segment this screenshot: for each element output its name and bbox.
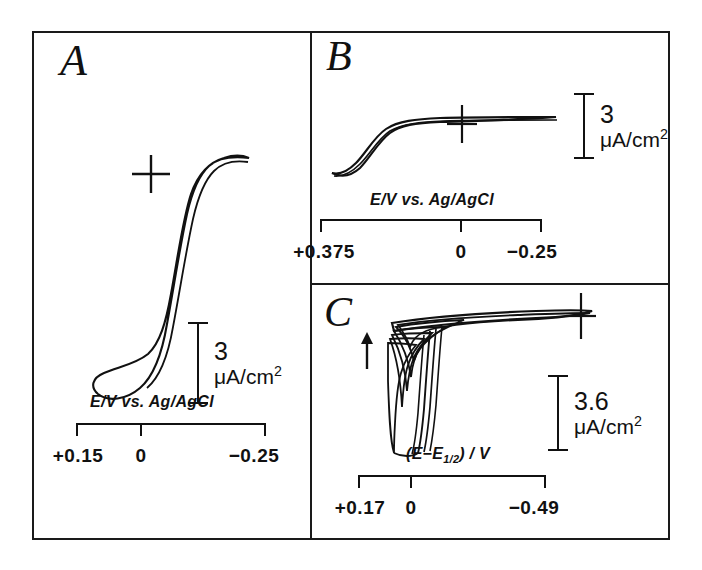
panel-c: C bbox=[310, 283, 670, 540]
panel-b-letter: B bbox=[326, 35, 352, 77]
axis-ticklabel-0: +0.375 bbox=[293, 241, 355, 263]
panel-a-axis-caption: E/V vs. Ag/AgCl bbox=[90, 393, 214, 411]
scalebar-serif-bottom bbox=[574, 157, 594, 159]
scalebar-beam bbox=[583, 93, 585, 159]
axis-tick-end bbox=[264, 423, 266, 436]
panel-a-scalebar-label: 3 μA/cm2 bbox=[214, 338, 282, 388]
axis-caption-sub: 1/2 bbox=[443, 453, 459, 465]
scalebar-value: 3.6 bbox=[574, 388, 642, 414]
panel-b-scalebar-label: 3 μA/cm2 bbox=[600, 101, 668, 151]
scalebar-value: 3 bbox=[214, 338, 282, 364]
panel-b-scalebar: 3 μA/cm2 bbox=[574, 93, 594, 159]
axis-tick-start bbox=[76, 423, 78, 436]
panel-a-letter: A bbox=[60, 39, 87, 83]
axis-ticklabel-0: +0.17 bbox=[335, 497, 386, 519]
panel-a-scalebar: 3 μA/cm2 bbox=[188, 322, 208, 404]
panel-a: A 3 μA/cm2 E/V vs. Ag/AgCl bbox=[32, 31, 310, 540]
scalebar-unit: μA/cm2 bbox=[574, 414, 642, 438]
scalebar-beam bbox=[197, 322, 199, 404]
axis-tick-mid bbox=[410, 475, 412, 488]
axis-caption-post: ) / V bbox=[459, 445, 490, 462]
axis-ticklabel-2: −0.25 bbox=[229, 445, 280, 467]
axis-ticklabel-1: 0 bbox=[135, 445, 146, 467]
scalebar-beam bbox=[557, 375, 559, 451]
scalebar-unit: μA/cm2 bbox=[214, 364, 282, 388]
axis-ticklabel-0: +0.15 bbox=[53, 445, 104, 467]
axis-tick-start bbox=[358, 475, 360, 488]
panel-c-axis-bracket bbox=[358, 475, 546, 491]
axis-tick-end bbox=[540, 219, 542, 232]
axis-tick-mid bbox=[460, 219, 462, 232]
scalebar-unit: μA/cm2 bbox=[600, 127, 668, 151]
scalebar-value: 3 bbox=[600, 101, 668, 127]
axis-ticklabel-2: −0.25 bbox=[507, 241, 558, 263]
panel-b-axis: E/V vs. Ag/AgCl +0.375 0 −0.25 bbox=[320, 191, 570, 281]
panel-a-axis: E/V vs. Ag/AgCl +0.15 0 −0.25 bbox=[76, 393, 291, 483]
axis-ticklabel-1: 0 bbox=[455, 241, 466, 263]
figure-root: A 3 μA/cm2 E/V vs. Ag/AgCl bbox=[0, 0, 702, 570]
axis-tick-end bbox=[544, 475, 546, 488]
axis-rail bbox=[358, 475, 546, 477]
panel-b-cross-marker bbox=[446, 103, 478, 145]
panel-c-scalebar: 3.6 μA/cm2 bbox=[548, 375, 568, 451]
axis-tick-mid bbox=[140, 423, 142, 436]
axis-caption-pre: (E−E bbox=[406, 445, 443, 462]
axis-rail bbox=[76, 423, 266, 425]
panel-c-up-arrow bbox=[356, 331, 378, 371]
panel-c-cross-marker bbox=[564, 291, 598, 341]
panel-c-axis-caption: (E−E1/2) / V bbox=[406, 445, 490, 465]
axis-ticklabel-2: −0.49 bbox=[509, 497, 560, 519]
panel-a-axis-bracket bbox=[76, 423, 266, 439]
axis-ticklabel-1: 0 bbox=[405, 497, 416, 519]
axis-rail bbox=[320, 219, 542, 221]
panel-b-axis-caption: E/V vs. Ag/AgCl bbox=[370, 191, 494, 209]
panel-c-axis: (E−E1/2) / V +0.17 0 −0.49 bbox=[358, 445, 608, 535]
panel-c-scalebar-label: 3.6 μA/cm2 bbox=[574, 388, 642, 438]
panel-b-axis-bracket bbox=[320, 219, 542, 235]
axis-tick-start bbox=[320, 219, 322, 232]
panel-b: B 3 μA/cm2 E/V vs. Ag/AgCl bbox=[310, 31, 670, 283]
panel-c-letter: C bbox=[324, 291, 352, 333]
panel-b-voltammogram bbox=[324, 109, 562, 181]
